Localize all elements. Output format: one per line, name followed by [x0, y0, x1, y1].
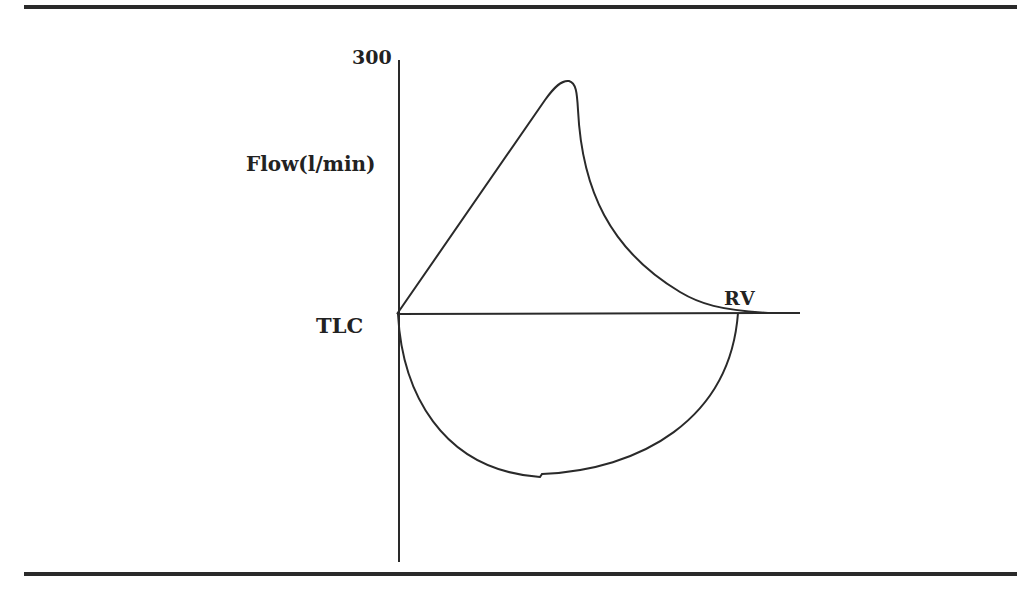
x-axis — [397, 313, 800, 314]
inspiratory-limb-curve — [398, 313, 738, 477]
expiratory-limb-curve — [397, 81, 768, 314]
y-max-tick-label: 300 — [352, 46, 392, 68]
flow-volume-loop-plot — [0, 0, 1036, 611]
rv-label: RV — [724, 287, 756, 309]
tlc-label: TLC — [316, 313, 363, 338]
y-axis-label: Flow(l/min) — [246, 152, 375, 176]
